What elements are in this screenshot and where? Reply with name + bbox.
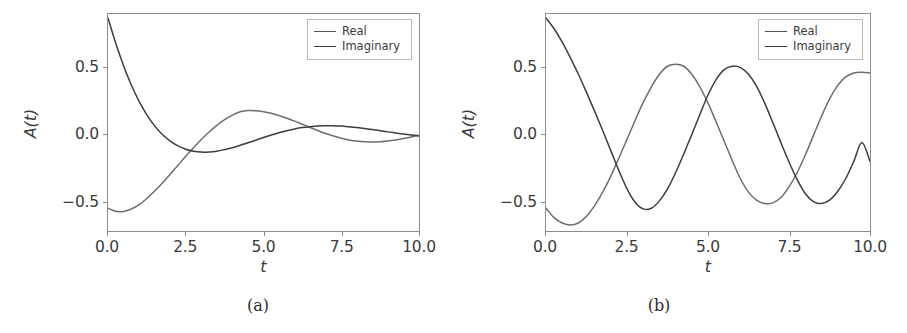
legend-label: Imaginary [793,41,851,53]
ytick-label: 0.5 [490,58,537,76]
xtick-label: 7.5 [330,238,354,256]
legend-item-real: Real [314,24,404,39]
legend-line-real-icon [314,31,336,32]
xtick-mark [627,232,628,236]
xtick-mark [342,232,343,236]
legend-b: Real Imaginary [758,19,863,60]
legend-a: Real Imaginary [307,19,412,60]
ytick-mark [103,67,107,68]
subcaption-a: (a) [247,296,269,315]
ytick-label: 0.5 [52,58,99,76]
ytick-mark [541,134,545,135]
subcaption-b: (b) [648,296,671,315]
panel-b: 0.0 2.5 5.0 7.5 10.0 0.5 0.0 −0.5 t A(t)… [447,0,900,333]
x-axis-title: t [705,257,711,276]
xtick-mark [708,232,709,236]
xtick-label: 10.0 [853,238,887,256]
legend-item-imaginary: Imaginary [765,39,855,54]
panel-a: 0.0 2.5 5.0 7.5 10.0 0.5 0.0 −0.5 t A(t)… [0,0,453,333]
figure-two-panel-complex-amplitude: 0.0 2.5 5.0 7.5 10.0 0.5 0.0 −0.5 t A(t)… [0,0,907,333]
curve-real [546,64,870,225]
legend-label: Real [793,26,818,38]
xtick-mark [545,232,546,236]
ytick-mark [541,67,545,68]
legend-line-real-icon [765,31,787,32]
legend-label: Real [342,26,367,38]
x-axis-title: t [260,257,266,276]
xtick-label: 0.0 [533,238,557,256]
xtick-label: 5.0 [696,238,720,256]
y-axis-title: A(t) [21,109,40,139]
xtick-mark [264,232,265,236]
xtick-mark [107,232,108,236]
xtick-label: 2.5 [614,238,638,256]
ytick-label: −0.5 [490,193,537,211]
ytick-mark [103,202,107,203]
ytick-label: 0.0 [52,125,99,143]
legend-line-imaginary-icon [765,46,787,47]
xtick-mark [185,232,186,236]
y-axis-title: A(t) [459,109,478,139]
ytick-mark [541,202,545,203]
xtick-label: 10.0 [402,238,436,256]
xtick-label: 7.5 [777,238,801,256]
xtick-label: 2.5 [173,238,197,256]
ytick-label: −0.5 [52,193,99,211]
legend-label: Imaginary [342,41,400,53]
ytick-mark [103,134,107,135]
xtick-label: 0.0 [95,238,119,256]
xtick-mark [870,232,871,236]
legend-item-real: Real [765,24,855,39]
legend-item-imaginary: Imaginary [314,39,404,54]
xtick-mark [419,232,420,236]
ytick-label: 0.0 [490,125,537,143]
xtick-mark [790,232,791,236]
xtick-label: 5.0 [251,238,275,256]
legend-line-imaginary-icon [314,46,336,47]
